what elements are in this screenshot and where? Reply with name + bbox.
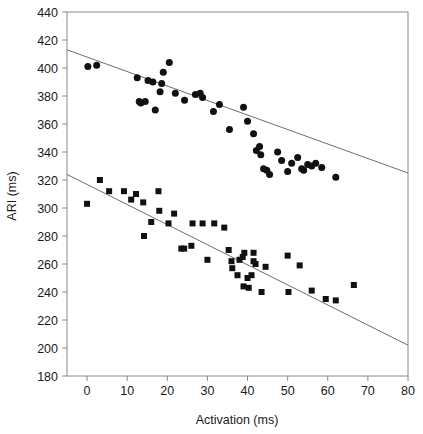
data-point-square	[190, 220, 196, 226]
data-point-circle	[152, 107, 159, 114]
data-point-square	[333, 297, 339, 303]
data-point-square	[221, 225, 227, 231]
data-point-square	[84, 201, 90, 207]
data-point-square	[253, 261, 259, 267]
data-point-square	[235, 272, 241, 278]
data-point-square	[97, 177, 103, 183]
data-point-square	[297, 262, 303, 268]
x-tick-label: 40	[241, 384, 255, 398]
data-point-square	[246, 285, 252, 291]
data-point-circle	[300, 167, 307, 174]
y-tick-label: 320	[37, 174, 58, 188]
x-tick-label: 50	[281, 384, 295, 398]
data-point-circle	[93, 62, 100, 69]
data-point-square	[181, 246, 187, 252]
x-axis-ticks: 01020304050607080	[84, 376, 415, 398]
data-point-circle	[294, 154, 301, 161]
y-tick-label: 400	[37, 62, 58, 76]
data-point-square	[204, 257, 210, 263]
data-point-square	[285, 253, 291, 259]
data-point-circle	[250, 130, 257, 137]
x-tick-label: 20	[160, 384, 174, 398]
data-point-square	[165, 220, 171, 226]
data-point-square	[156, 208, 162, 214]
circles-fit	[67, 50, 408, 173]
data-point-circle	[210, 108, 217, 115]
data-point-circle	[142, 98, 149, 105]
y-tick-label: 260	[37, 258, 58, 272]
data-point-square	[229, 265, 235, 271]
data-point-square	[148, 219, 154, 225]
data-point-circle	[274, 149, 281, 156]
x-tick-label: 60	[321, 384, 335, 398]
data-point-square	[188, 243, 194, 249]
data-point-circle	[332, 174, 339, 181]
data-point-circle	[256, 143, 263, 150]
data-point-square	[259, 289, 265, 295]
data-point-circle	[158, 80, 165, 87]
regression-lines	[67, 50, 408, 345]
data-point-circle	[244, 118, 251, 125]
data-point-circle	[166, 59, 173, 66]
y-tick-label: 180	[37, 370, 58, 384]
data-point-circle	[134, 74, 141, 81]
data-point-square	[128, 197, 134, 203]
data-point-circle	[84, 63, 91, 70]
data-point-circle	[288, 160, 295, 167]
data-point-square	[226, 247, 232, 253]
y-axis-title: ARI (ms)	[5, 171, 19, 220]
data-point-square	[285, 289, 291, 295]
data-point-square	[228, 258, 234, 264]
y-tick-label: 440	[37, 6, 58, 20]
data-point-square	[241, 283, 247, 289]
data-point-circle	[284, 168, 291, 175]
data-point-square	[323, 296, 329, 302]
y-tick-label: 360	[37, 118, 58, 132]
x-tick-label: 30	[200, 384, 214, 398]
data-point-square	[211, 220, 217, 226]
data-point-square	[106, 188, 112, 194]
data-point-square	[141, 233, 147, 239]
data-point-circle	[278, 157, 285, 164]
y-tick-label: 340	[37, 146, 58, 160]
data-point-circle	[266, 171, 273, 178]
data-point-square	[133, 191, 139, 197]
data-point-circle	[181, 97, 188, 104]
y-axis-ticks: 1802002202402602803003203403603804004204…	[37, 6, 67, 384]
data-point-square	[251, 250, 257, 256]
data-point-circle	[157, 88, 164, 95]
data-point-square	[140, 199, 146, 205]
scatter-plot: 1802002202402602803003203403603804004204…	[0, 0, 423, 434]
data-point-circle	[226, 126, 233, 133]
data-point-circle	[312, 160, 319, 167]
data-point-square	[309, 288, 315, 294]
data-point-square	[263, 264, 269, 270]
x-tick-label: 70	[361, 384, 375, 398]
data-point-square	[200, 220, 206, 226]
y-tick-label: 220	[37, 314, 58, 328]
x-axis-title: Activation (ms)	[196, 413, 279, 427]
data-point-circle	[149, 79, 156, 86]
plot-frame	[67, 12, 408, 376]
data-point-square	[155, 188, 161, 194]
y-tick-label: 300	[37, 202, 58, 216]
data-series	[84, 59, 357, 304]
series-squares	[84, 177, 357, 303]
y-tick-label: 240	[37, 286, 58, 300]
data-point-square	[121, 188, 127, 194]
data-point-circle	[160, 69, 167, 76]
chart-figure: 1802002202402602803003203403603804004204…	[0, 0, 423, 434]
x-tick-label: 0	[84, 384, 91, 398]
y-tick-label: 200	[37, 342, 58, 356]
data-point-square	[249, 272, 255, 278]
y-tick-label: 280	[37, 230, 58, 244]
data-point-square	[241, 250, 247, 256]
data-point-circle	[216, 101, 223, 108]
data-point-square	[351, 282, 357, 288]
data-point-circle	[257, 151, 264, 158]
data-point-square	[171, 211, 177, 217]
data-point-circle	[172, 90, 179, 97]
data-point-circle	[240, 104, 247, 111]
plot-frame-rect	[67, 12, 408, 376]
y-tick-label: 420	[37, 34, 58, 48]
